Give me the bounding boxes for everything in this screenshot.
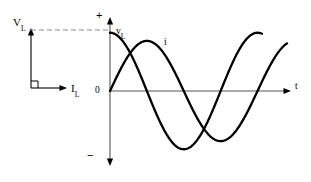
waveform-axes-group xyxy=(107,17,291,166)
positive-sign-label: + xyxy=(96,10,102,21)
waveform-down-arrowhead xyxy=(107,159,113,167)
voltage-curve-label: vL xyxy=(116,27,125,38)
phasor-voltage-arrowhead xyxy=(28,28,34,36)
waveform-up-arrowhead xyxy=(107,17,113,25)
phasor-voltage-label-subscript: L xyxy=(21,24,26,33)
current-curve-label: i xyxy=(164,38,167,48)
figure-canvas xyxy=(0,0,311,182)
right-angle-marker-icon xyxy=(31,81,38,88)
waveform-time-arrowhead xyxy=(284,88,292,94)
phasor-voltage-label-text: V xyxy=(13,16,21,28)
inductor-waveform-figure: VL IL vL i t 0 + − xyxy=(0,0,311,182)
phasor-current-arrowhead xyxy=(60,85,68,91)
origin-label: 0 xyxy=(95,86,100,96)
negative-sign-label: − xyxy=(87,150,93,161)
phasor-axes-group xyxy=(28,28,110,91)
phasor-voltage-label: VL xyxy=(13,17,26,31)
voltage-curve-label-subscript: L xyxy=(121,32,126,41)
phasor-current-label: IL xyxy=(71,83,79,97)
time-axis-label: t xyxy=(295,82,298,92)
phasor-current-label-subscript: L xyxy=(75,90,80,99)
